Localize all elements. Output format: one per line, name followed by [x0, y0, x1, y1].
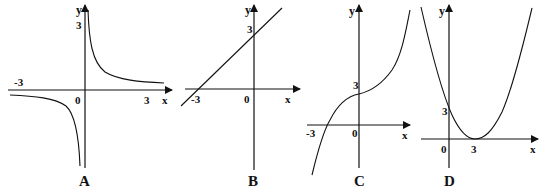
graph-c-caption: C [354, 173, 365, 189]
graph-d-origin: 0 [441, 143, 447, 155]
graph-b-x-tick-neg3: -3 [191, 93, 201, 105]
graph-d-parabola [421, 7, 532, 139]
graph-b-line [181, 8, 282, 106]
graph-b-y-label: y [245, 3, 251, 17]
graph-b-origin: 0 [244, 93, 250, 105]
graph-a-y-tick-3: 3 [76, 19, 82, 31]
graph-d-caption: D [444, 173, 455, 189]
graph-c-y-tick-3: 3 [353, 79, 359, 91]
graph-a-caption: A [79, 173, 90, 189]
graph-d-y-label: y [439, 4, 445, 18]
graph-a-x-tick-3: 3 [144, 94, 150, 106]
graph-d-x-label: x [530, 143, 536, 155]
graph-a: y 3 -3 0 3 x A [8, 3, 172, 189]
graph-c: y 3 -3 0 x C [306, 4, 410, 189]
graph-a-origin: 0 [75, 94, 81, 106]
graph-d: y 3 0 3 x D [421, 4, 538, 189]
graph-a-curve-right [88, 10, 164, 83]
graph-a-x-label: x [162, 94, 168, 106]
graph-c-curve [312, 10, 410, 175]
graph-d-x-tick-3: 3 [471, 143, 477, 155]
graph-d-y-tick-3: 3 [442, 105, 448, 117]
graph-a-x-tick-neg3: -3 [14, 76, 24, 88]
graph-b: y 3 -3 0 x B [181, 3, 300, 189]
graph-c-origin: 0 [352, 127, 358, 139]
graph-c-x-tick-neg3: -3 [306, 127, 316, 139]
graph-b-caption: B [248, 173, 258, 189]
graph-b-x-label: x [285, 93, 291, 105]
graph-a-y-label: y [76, 3, 82, 17]
graph-c-x-label: x [402, 129, 408, 141]
graph-c-y-label: y [349, 4, 355, 18]
graph-b-y-tick-3: 3 [247, 23, 253, 35]
graph-a-curve-left [10, 95, 80, 166]
